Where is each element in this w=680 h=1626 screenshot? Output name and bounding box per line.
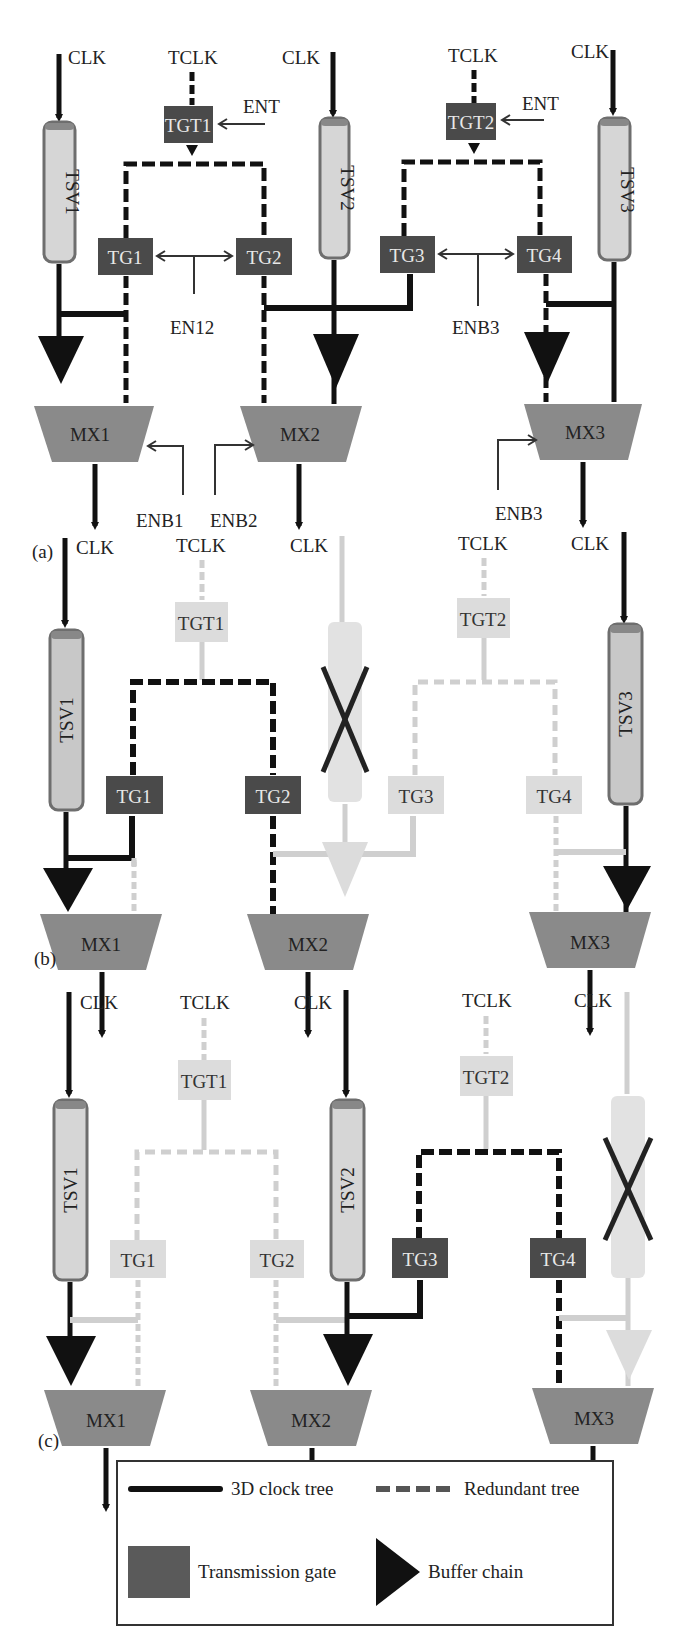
buffer-chain [603, 866, 651, 910]
enb-label: ENB1 [136, 510, 184, 531]
mux-label: MX2 [288, 934, 328, 955]
panel-label-c: (c) [38, 1430, 59, 1452]
failed-tsv-2 [323, 622, 367, 802]
mux-label: MX2 [280, 424, 320, 445]
tgt-label: TGT1 [165, 115, 211, 136]
panel-c: CLK CLK CLK TCLK TCLK TSV1 TSV2 TGT1 TGT… [44, 990, 654, 1508]
tg-label: TG1 [108, 247, 143, 268]
buffer-chain [323, 1334, 373, 1386]
tgt-1: TGT1 [175, 602, 228, 642]
tclk-label: TCLK [176, 535, 226, 556]
tg-1: TG1 [98, 238, 153, 275]
tg-2: TG2 [250, 1240, 304, 1278]
tg-4: TG4 [526, 776, 582, 814]
tg-label: TG4 [541, 1249, 576, 1270]
tgt-1: TGT1 [178, 1060, 231, 1100]
tgt-label: TGT1 [178, 613, 224, 634]
tgt-2: TGT2 [460, 1056, 513, 1096]
clk-label: CLK [574, 990, 612, 1011]
tg-3: TG3 [388, 776, 444, 814]
legend-label: 3D clock tree [231, 1478, 333, 1500]
tsv-label: TSV3 [615, 691, 636, 736]
buffer-chain-faded [322, 842, 368, 897]
clk-label: CLK [571, 41, 609, 62]
tg-label: TG2 [247, 247, 282, 268]
tsv-3: TSV3 [609, 624, 642, 804]
en-label: ENB3 [452, 317, 500, 338]
panel-b: CLK CLK CLK TCLK TCLK TSV1 TSV3 TGT1 [34, 532, 651, 1034]
legend-item-redundant-tree: Redundant tree [376, 1478, 580, 1500]
buffer-triangle-icon [376, 1538, 420, 1606]
tsv-label: TSV2 [337, 1167, 358, 1212]
clock-path [347, 1280, 420, 1316]
redundant-tree-active [133, 682, 273, 775]
tclk-label: TCLK [448, 45, 498, 66]
tsv-2: TSV2 [320, 118, 358, 258]
mux-1: MX1 [40, 914, 162, 970]
en-label: EN12 [170, 317, 214, 338]
tg-3: TG3 [392, 1238, 448, 1278]
tg-label: TG1 [117, 786, 152, 807]
panel-label: (b) [34, 948, 56, 970]
legend: 3D clock tree Redundant tree Transmissio… [116, 1460, 614, 1626]
tsv-1: TSV1 [44, 122, 83, 262]
mux-3: MX3 [529, 912, 651, 968]
panel-label: (a) [32, 541, 53, 563]
enb-arrow [148, 446, 183, 495]
tg-1: TG1 [106, 776, 163, 814]
tg-label: TG2 [256, 786, 291, 807]
solid-line-icon [128, 1486, 223, 1492]
legend-item-buffer-chain: Buffer chain [376, 1538, 523, 1606]
mux-2: MX2 [247, 914, 369, 970]
legend-label: Redundant tree [464, 1478, 580, 1500]
tgt-label: TGT2 [463, 1067, 509, 1088]
tclk-label: TCLK [168, 47, 218, 68]
tg-label: TG3 [399, 786, 434, 807]
tg-label: TG1 [121, 1250, 156, 1271]
buffer-chain [46, 1336, 96, 1386]
tg-4: TG4 [530, 1238, 586, 1278]
clk-label: CLK [282, 47, 320, 68]
buffer-chain-faded [606, 1330, 652, 1380]
mux-3: MX3 [524, 404, 642, 460]
mux-label: MX3 [565, 422, 605, 443]
tsv-2: TSV2 [331, 1100, 364, 1280]
clk-label: CLK [290, 535, 328, 556]
tclk-label: TCLK [462, 990, 512, 1011]
tg-label: TG3 [403, 1249, 438, 1270]
redundant-tree [126, 164, 264, 238]
legend-item-transmission-gate: Transmission gate [128, 1546, 336, 1598]
tsv-3: TSV3 [599, 118, 638, 260]
buffer-chain [38, 336, 84, 384]
legend-label: Transmission gate [198, 1561, 336, 1583]
legend-item-clock-tree: 3D clock tree [128, 1478, 333, 1500]
tg-1: TG1 [110, 1240, 166, 1278]
enb-arrow [215, 445, 253, 495]
tclk-label: TCLK [180, 992, 230, 1013]
redundant-tree-faded [415, 682, 555, 775]
tg-3: TG3 [380, 236, 435, 273]
tsv-label: TSV1 [60, 1167, 81, 1212]
mux-1: MX1 [44, 1390, 166, 1446]
clock-path [264, 274, 410, 308]
clk-label: CLK [80, 992, 118, 1013]
mux-3: MX3 [532, 1388, 654, 1444]
tgt-1: TGT1 [164, 106, 213, 156]
tgt-label: TGT2 [448, 112, 494, 133]
enb-label: ENB3 [495, 503, 543, 524]
tg-label: TG4 [527, 245, 562, 266]
tsv-label: TSV1 [56, 697, 77, 742]
tg-label: TG4 [537, 786, 572, 807]
mux-label: MX3 [574, 1408, 614, 1429]
tsv-label: TSV1 [62, 169, 83, 214]
tsv-label: TSV2 [337, 165, 358, 210]
legend-label: Buffer chain [428, 1561, 523, 1583]
enb-label: ENB2 [210, 510, 258, 531]
mux-1: MX1 [34, 406, 154, 462]
tgt-label: TGT1 [181, 1071, 227, 1092]
mux-label: MX3 [570, 932, 610, 953]
tgt-2: TGT2 [446, 103, 496, 154]
mux-label: MX1 [86, 1410, 126, 1431]
mux-label: MX1 [70, 424, 110, 445]
